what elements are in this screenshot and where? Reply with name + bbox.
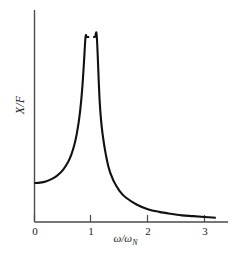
x-tick-label-2: 2 bbox=[139, 226, 157, 237]
y-axis-label-text: X/F bbox=[14, 96, 26, 115]
curve-branch-subresonant bbox=[35, 35, 90, 183]
x-tick-label-1: 1 bbox=[82, 226, 100, 237]
x-axis-label-subscript: N bbox=[132, 238, 137, 247]
x-tick-label-3: 3 bbox=[196, 226, 214, 237]
y-axis-label: X/F bbox=[2, 86, 38, 124]
x-tick-label-0: 0 bbox=[26, 226, 44, 237]
curve-branch-superresonant bbox=[93, 32, 216, 217]
plot-canvas bbox=[0, 0, 251, 258]
resonance-figure: X/F ω/ωN 0 1 2 3 bbox=[0, 0, 251, 258]
x-axis-label-text: ω/ω bbox=[114, 232, 133, 244]
